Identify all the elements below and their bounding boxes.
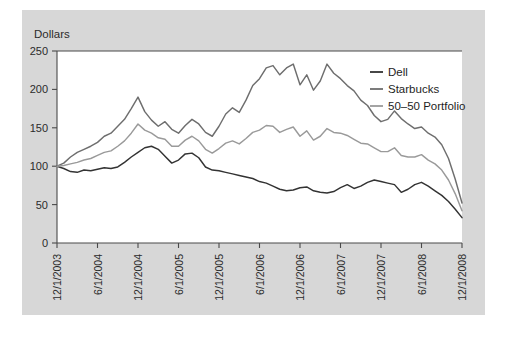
x-tick-label: 12/1/2003 <box>51 254 63 301</box>
x-tick-label: 12/1/2005 <box>213 254 225 301</box>
x-tick-label: 6/1/2006 <box>254 254 266 295</box>
x-tick-label: 12/1/2008 <box>456 254 468 301</box>
x-tick-label: 6/1/2007 <box>335 254 347 295</box>
x-axis-tick-group: 12/1/20036/1/200412/1/20046/1/200512/1/2… <box>51 243 468 301</box>
chart-figure-panel: Dollars 050100150200250 12/1/20036/1/200… <box>22 10 485 315</box>
y-tick-label: 250 <box>30 45 48 57</box>
x-tick-label: 6/1/2008 <box>416 254 428 295</box>
legend-label-starbucks: Starbucks <box>388 83 439 95</box>
y-tick-label: 50 <box>36 199 48 211</box>
stock-performance-line-chart: Dollars 050100150200250 12/1/20036/1/200… <box>22 10 485 315</box>
y-tick-label: 150 <box>30 122 48 134</box>
x-tick-label: 6/1/2005 <box>173 254 185 295</box>
legend-label-50-50-portfolio: 50–50 Portfolio <box>388 100 465 112</box>
x-tick-label: 12/1/2007 <box>375 254 387 301</box>
y-tick-label: 0 <box>42 237 48 249</box>
y-axis-title: Dollars <box>34 28 70 40</box>
x-tick-label: 12/1/2004 <box>132 254 144 301</box>
y-tick-label: 100 <box>30 160 48 172</box>
y-tick-label: 200 <box>30 83 48 95</box>
x-tick-label: 6/1/2004 <box>92 254 104 295</box>
legend-label-dell: Dell <box>388 66 408 78</box>
x-tick-label: 12/1/2006 <box>294 254 306 301</box>
